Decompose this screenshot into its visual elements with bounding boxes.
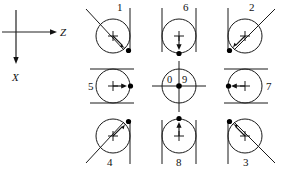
cell-center-dot <box>176 83 182 89</box>
coordinate-axes: Z X <box>2 10 67 83</box>
cell-4-contact-dot <box>126 119 131 124</box>
cell-1-direction-arrow <box>113 36 123 46</box>
x-axis-label: X <box>11 71 20 83</box>
cell-3: 3 <box>227 119 275 168</box>
z-axis-label: Z <box>60 26 67 38</box>
cell-8-contact-dot <box>176 116 181 121</box>
cell-2-diagonal-tangent <box>234 9 275 50</box>
cell-6-label: 6 <box>183 1 189 13</box>
cell-7-label: 7 <box>266 80 272 92</box>
cell-7: 7 <box>224 69 272 103</box>
x-axis-arrowhead <box>13 57 18 64</box>
contact-configuration-diagram: Z X 1 <box>0 0 284 172</box>
figure-canvas: Z X 1 <box>0 0 284 172</box>
cell-6-arrowhead <box>176 44 181 50</box>
cell-1-diagonal-tangent <box>86 9 124 50</box>
cell-2: 2 <box>227 1 275 53</box>
cell-1: 1 <box>86 1 131 53</box>
cell-3-label: 3 <box>243 156 249 168</box>
cell-5: 5 <box>88 69 134 103</box>
cell-4: 4 <box>86 119 131 168</box>
cell-3-diagonal-tangent <box>234 122 275 163</box>
cell-center: 0 9 <box>152 61 206 112</box>
cell-4-label: 4 <box>107 156 113 168</box>
cell-6-contact-dot <box>176 51 181 56</box>
cell-2-label: 2 <box>249 1 255 13</box>
center-label-zero: 0 <box>167 74 172 85</box>
cell-5-label: 5 <box>88 80 94 92</box>
cell-4-diagonal-tangent <box>86 122 124 163</box>
cell-5-arrowhead <box>121 83 127 88</box>
cell-7-arrowhead <box>231 83 237 88</box>
cell-7-contact-dot <box>226 83 231 88</box>
cell-4-direction-arrow <box>113 126 123 136</box>
cell-8-arrowhead <box>176 122 181 128</box>
cell-6: 6 <box>162 1 196 56</box>
center-label-nine: 9 <box>182 74 187 85</box>
cell-1-label: 1 <box>117 1 123 13</box>
cell-8: 8 <box>162 116 196 168</box>
z-axis-arrowhead <box>50 29 57 34</box>
cell-8-label: 8 <box>176 156 182 168</box>
cell-2-contact-dot <box>227 48 232 53</box>
cell-3-contact-dot <box>227 119 232 124</box>
cell-5-contact-dot <box>128 83 133 88</box>
cell-1-contact-dot <box>126 48 131 53</box>
